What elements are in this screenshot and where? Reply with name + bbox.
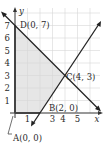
y-axis-label: y (18, 6, 24, 16)
x-tick-3: 3 (50, 114, 55, 124)
y-tick-7: 7 (5, 21, 10, 31)
feasible-region-graph: 1 2 3 4 5 6 7 1 3 4 5 y x D(0, 7) C(4, 3… (0, 0, 109, 145)
label-point-D: D(0, 7) (20, 20, 50, 30)
y-tick-2: 2 (5, 83, 10, 93)
label-point-A: A(0, 0) (12, 133, 42, 143)
y-tick-3: 3 (5, 71, 10, 81)
y-tick-5: 5 (5, 46, 10, 56)
label-A-leader (8, 116, 13, 134)
x-tick-5: 5 (75, 114, 80, 124)
y-tick-labels: 1 2 3 4 5 6 7 (5, 21, 10, 106)
label-point-B: B(2, 0) (49, 103, 78, 113)
x-tick-4: 4 (60, 114, 65, 124)
x-tick-1: 1 (25, 114, 30, 124)
label-point-C: C(4, 3) (66, 72, 95, 82)
y-tick-1: 1 (5, 96, 10, 106)
y-tick-4: 4 (5, 58, 10, 68)
x-axis-label: x (95, 114, 100, 124)
y-tick-6: 6 (5, 33, 10, 43)
